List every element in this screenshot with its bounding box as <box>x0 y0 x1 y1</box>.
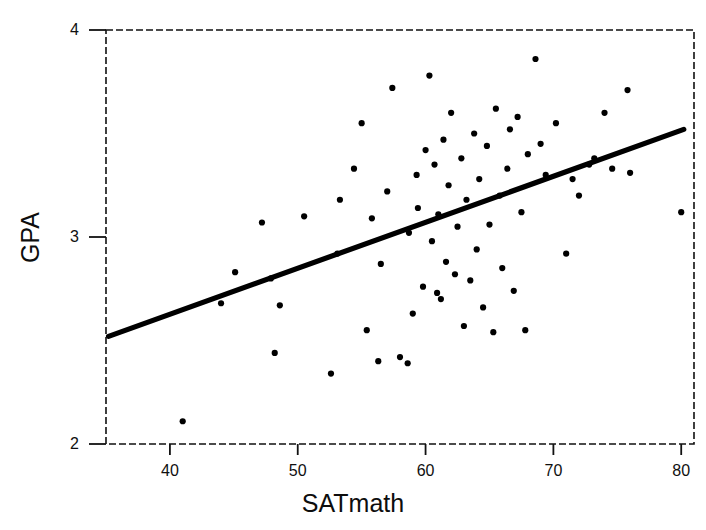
scatter-point <box>434 290 440 296</box>
scatter-point <box>471 130 477 136</box>
plot-canvas <box>0 0 706 530</box>
scatter-point <box>272 350 278 356</box>
scatter-point <box>397 354 403 360</box>
scatter-point <box>504 166 510 172</box>
scatter-point <box>569 176 575 182</box>
scatter-point <box>259 219 265 225</box>
scatter-point <box>461 323 467 329</box>
y-axis-title: GPA <box>15 212 44 263</box>
scatter-point <box>467 277 473 283</box>
scatter-point <box>601 110 607 116</box>
scatter-point <box>499 265 505 271</box>
scatter-point <box>525 151 531 157</box>
scatter-point <box>486 221 492 227</box>
scatter-point <box>384 188 390 194</box>
scatter-point <box>431 161 437 167</box>
scatter-point <box>410 310 416 316</box>
scatter-point <box>420 284 426 290</box>
scatter-point <box>463 197 469 203</box>
scatter-point <box>301 213 307 219</box>
scatter-point <box>351 166 357 172</box>
scatter-point <box>538 141 544 147</box>
scatter-point <box>405 360 411 366</box>
scatter-point <box>422 147 428 153</box>
scatter-point <box>474 246 480 252</box>
scatter-point <box>232 269 238 275</box>
scatter-point <box>337 197 343 203</box>
scatter-point <box>328 371 334 377</box>
scatter-point <box>414 172 420 178</box>
scatter-point <box>591 155 597 161</box>
scatter-point <box>484 143 490 149</box>
scatter-point <box>624 87 630 93</box>
scatter-point <box>627 170 633 176</box>
scatter-point <box>563 250 569 256</box>
scatter-point <box>378 261 384 267</box>
scatter-point <box>389 85 395 91</box>
scatter-plot-figure: GPA SATmath 4050607080234 <box>0 0 706 530</box>
y-tick-label: 3 <box>57 228 79 246</box>
scatter-point <box>511 288 517 294</box>
y-axis-title-container: GPA <box>0 0 60 474</box>
scatter-point <box>609 166 615 172</box>
scatter-point <box>493 106 499 112</box>
scatter-point <box>364 327 370 333</box>
scatter-point <box>375 358 381 364</box>
scatter-point <box>452 271 458 277</box>
scatter-point <box>334 250 340 256</box>
x-tick-label: 70 <box>544 462 562 480</box>
scatter-point <box>490 329 496 335</box>
scatter-point <box>406 230 412 236</box>
scatter-point <box>553 120 559 126</box>
scatter-point <box>426 72 432 78</box>
scatter-point <box>586 161 592 167</box>
scatter-point <box>268 275 274 281</box>
scatter-point <box>218 300 224 306</box>
scatter-point <box>678 209 684 215</box>
scatter-point <box>448 110 454 116</box>
plot-frame <box>106 30 694 444</box>
scatter-point <box>443 259 449 265</box>
scatter-point <box>180 418 186 424</box>
regression-line <box>109 129 684 336</box>
scatter-point <box>369 215 375 221</box>
scatter-point <box>515 114 521 120</box>
scatter-point <box>576 193 582 199</box>
scatter-point <box>445 182 451 188</box>
scatter-point-group <box>180 56 685 424</box>
scatter-point <box>454 224 460 230</box>
scatter-point <box>522 327 528 333</box>
x-tick-label: 60 <box>417 462 435 480</box>
scatter-point <box>440 137 446 143</box>
scatter-point <box>277 302 283 308</box>
scatter-point <box>438 296 444 302</box>
x-tick-label: 40 <box>161 462 179 480</box>
y-tick-label: 4 <box>57 21 79 39</box>
x-axis-title: SATmath <box>0 489 706 518</box>
scatter-point <box>458 155 464 161</box>
scatter-point <box>476 176 482 182</box>
scatter-point <box>518 209 524 215</box>
scatter-point <box>415 205 421 211</box>
scatter-point <box>359 120 365 126</box>
scatter-point <box>497 193 503 199</box>
scatter-point <box>507 126 513 132</box>
scatter-point <box>429 238 435 244</box>
x-tick-label: 50 <box>289 462 307 480</box>
scatter-point <box>543 172 549 178</box>
scatter-point <box>480 304 486 310</box>
y-tick-label: 2 <box>57 435 79 453</box>
x-tick-label: 80 <box>672 462 690 480</box>
scatter-point <box>435 211 441 217</box>
scatter-point <box>532 56 538 62</box>
